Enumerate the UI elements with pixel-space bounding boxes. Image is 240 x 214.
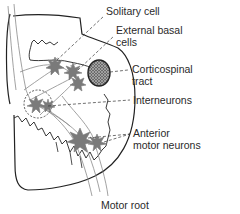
leader-interneurons xyxy=(48,100,130,106)
ventral-horn-outline xyxy=(14,94,110,160)
spinal-cord-diagram: Solitary cell External basal cells Corti… xyxy=(0,0,240,214)
label-solitary-cell: Solitary cell xyxy=(106,6,160,18)
label-external-basal-cells-line1: External basal xyxy=(116,25,183,37)
leader-corticospinal-tract xyxy=(110,70,128,72)
label-anterior-motor-neurons-line1: Anterior xyxy=(133,128,201,140)
label-anterior-motor-neurons: Anterior motor neurons xyxy=(133,128,201,151)
external-basal-cell-neuron xyxy=(64,63,82,80)
external-basal-cell-neuron xyxy=(70,76,86,91)
label-motor-root: Motor root xyxy=(101,200,149,212)
corticospinal-tract-oval xyxy=(88,60,110,86)
label-interneurons-text: Interneurons xyxy=(133,94,192,106)
label-interneurons: Interneurons xyxy=(133,95,192,107)
solitary-cell-neuron xyxy=(46,57,64,75)
label-external-basal-cells: External basal cells xyxy=(116,25,183,48)
label-motor-root-text: Motor root xyxy=(101,199,149,211)
label-solitary-cell-text: Solitary cell xyxy=(106,5,160,17)
label-anterior-motor-neurons-line2: motor neurons xyxy=(133,140,201,152)
label-external-basal-cells-line2: cells xyxy=(116,37,183,49)
label-corticospinal-tract-line1: Corticospinal xyxy=(132,64,193,76)
anterior-motor-neuron xyxy=(67,128,93,152)
label-corticospinal-tract-line2: tract xyxy=(132,76,193,88)
label-corticospinal-tract: Corticospinal tract xyxy=(132,64,193,87)
